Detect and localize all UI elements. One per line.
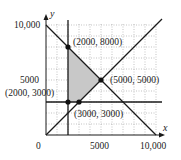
vertex-5000-5000 [98, 77, 103, 82]
point-label-3000-3000: (3000, 3000) [74, 109, 123, 120]
vertex-3000-3000 [76, 99, 81, 104]
vertex-2000-8000 [65, 44, 70, 49]
x-axis-label: x [162, 122, 168, 133]
y-axis-arrow-icon [44, 14, 49, 20]
x-axis-arrow-icon [159, 133, 165, 138]
origin-label: 0 [36, 141, 41, 151]
point-label-2000-3000: (2000, 3000) [5, 88, 54, 99]
vertex-2000-3000 [65, 99, 70, 104]
chart: y x 0 5000 10,000 10,000 5000 (2000, 800… [0, 0, 181, 160]
point-label-2000-8000: (2000, 8000) [73, 37, 122, 48]
x-tick-5000: 5000 [90, 141, 109, 151]
x-tick-10000: 10,000 [140, 141, 166, 151]
y-tick-5000: 5000 [20, 75, 39, 85]
point-label-5000-5000: (5000, 5000) [110, 75, 159, 86]
y-axis-label: y [49, 8, 55, 19]
y-tick-10000: 10,000 [14, 20, 40, 30]
